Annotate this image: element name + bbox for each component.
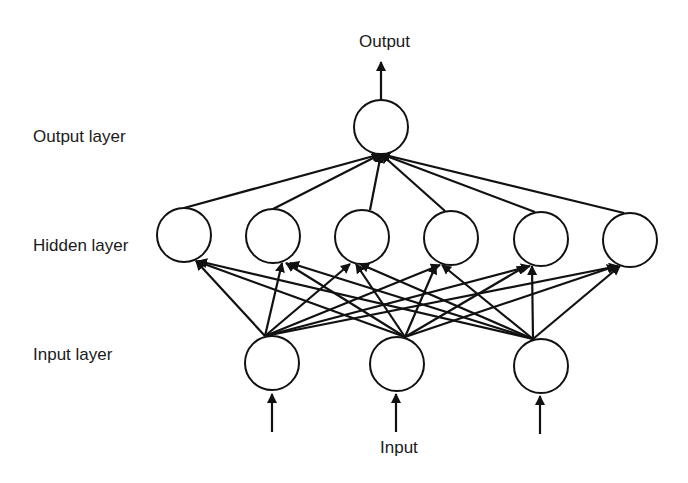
hidden-layer-nodes [157, 208, 657, 267]
hidden-node-2 [246, 209, 300, 263]
hidden-node-1 [157, 208, 211, 262]
input-to-hidden-edges [196, 261, 620, 339]
hidden-node-6 [603, 213, 657, 267]
input-arrows [272, 394, 540, 434]
output-node [354, 100, 408, 154]
network-diagram [0, 0, 688, 483]
input-node-1 [245, 336, 299, 390]
input-node-2 [370, 337, 424, 391]
hidden-node-5 [514, 212, 568, 266]
output-layer-nodes [354, 100, 408, 154]
input-node-3 [514, 339, 568, 393]
hidden-node-4 [424, 211, 478, 265]
hidden-node-3 [335, 210, 389, 264]
hidden-to-output-edges [184, 154, 624, 213]
input-layer-nodes [245, 336, 568, 393]
